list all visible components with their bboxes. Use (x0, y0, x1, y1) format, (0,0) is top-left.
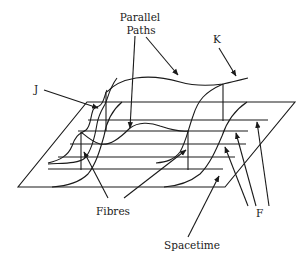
fibre-right-back (156, 84, 223, 163)
label-parallel-paths-line2: Paths (126, 25, 155, 36)
fibre-bundle-diagram: Parallel Paths K J Fibres F Spacetime (0, 0, 308, 265)
arrow-f-3 (257, 122, 269, 206)
label-fibres: Fibres (96, 206, 130, 217)
label-parallel-paths-line1: Parallel (120, 12, 160, 23)
arrow-parallel-paths-2 (146, 37, 178, 75)
arrow-f-1 (225, 147, 248, 206)
arrow-parallel-paths-1 (130, 36, 135, 128)
label-f: F (256, 208, 263, 219)
arrow-k (219, 48, 236, 76)
label-j: J (34, 84, 38, 95)
parallel-path-upper (107, 77, 248, 92)
diagram-drawing (0, 0, 308, 265)
label-k: K (213, 34, 221, 45)
arrow-j (44, 90, 98, 108)
arrow-spacetime (188, 176, 219, 237)
label-spacetime: Spacetime (164, 240, 220, 251)
